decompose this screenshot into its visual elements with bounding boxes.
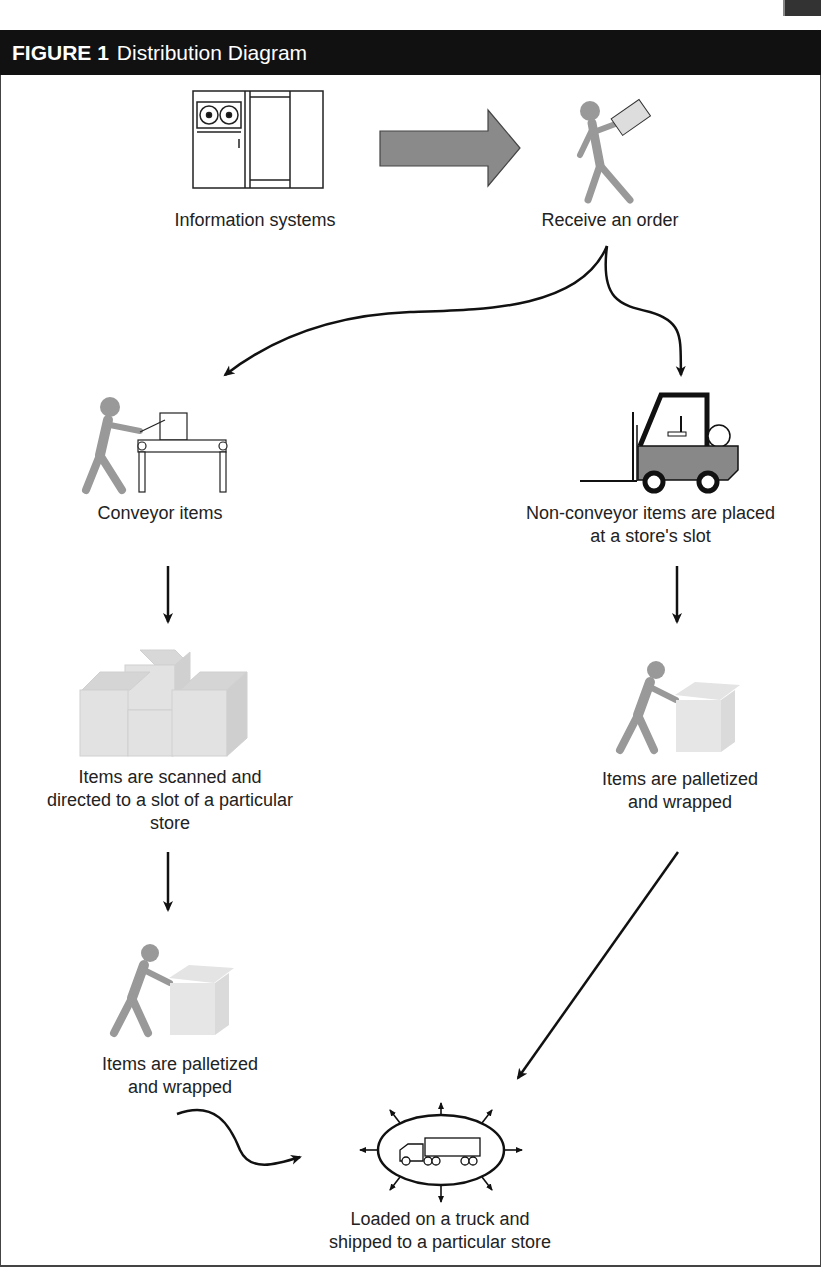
label-line: and wrapped [560, 791, 800, 814]
label-line: Items are palletized [60, 1053, 300, 1076]
worker-with-box-icon [114, 944, 234, 1035]
computer-icon [193, 91, 323, 188]
stacked-boxes-icon [80, 650, 247, 756]
arrow-to-truck-right [518, 852, 678, 1078]
label-line: Items are palletized [560, 768, 800, 791]
node-loaded-truck: Loaded on a truck and shipped to a parti… [290, 1208, 590, 1254]
person-with-letter-icon [580, 99, 650, 200]
arrow-to-forklift [606, 246, 681, 375]
truck-hub-icon [360, 1103, 522, 1202]
worker-with-box-icon [620, 661, 740, 752]
arrow-to-truck-left [177, 1110, 300, 1165]
label-line: and wrapped [60, 1076, 300, 1099]
label-line: directed to a slot of a particular [0, 789, 340, 812]
node-palletized-left: Items are palletized and wrapped [60, 1053, 300, 1099]
label-line: at a store's slot [480, 525, 821, 548]
label-line: shipped to a particular store [290, 1231, 590, 1254]
label-line: Non-conveyor items are placed [480, 502, 821, 525]
big-arrow-icon [380, 110, 520, 186]
conveyor-worker-icon [86, 397, 227, 492]
forklift-icon [580, 395, 738, 491]
node-items-scanned: Items are scanned and directed to a slot… [0, 766, 340, 835]
arrow-to-conveyor [225, 246, 607, 375]
node-non-conveyor-items: Non-conveyor items are placed at a store… [480, 502, 821, 548]
node-palletized-right: Items are palletized and wrapped [560, 768, 800, 814]
label-line: Loaded on a truck and [290, 1208, 590, 1231]
node-information-systems: Information systems [140, 209, 370, 232]
label-line: Items are scanned and [0, 766, 340, 789]
node-receive-order: Receive an order [510, 209, 710, 232]
node-conveyor-items: Conveyor items [60, 502, 260, 525]
label-line: store [0, 812, 340, 835]
